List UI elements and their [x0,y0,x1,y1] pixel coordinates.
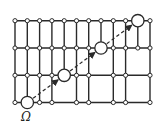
highlighted-node [21,96,33,108]
grid-node [111,46,115,50]
grid-nodes [13,19,152,105]
grid-node [87,46,91,50]
grid-lines [15,21,150,103]
grid-node [25,46,29,50]
dashed-path-arrows [33,25,132,98]
grid-node [148,73,152,77]
dashed-arrow [70,53,95,71]
grid-node [74,100,78,104]
dashed-arrow [33,80,58,98]
grid-node [38,46,42,50]
grid-node [38,19,42,23]
grid-node [62,46,66,50]
omega-label: Ω [21,110,31,124]
grid-node [13,46,17,50]
grid-node [124,19,128,23]
grid-node [13,73,17,77]
grid-node [38,73,42,77]
dashed-arrow [107,25,132,43]
grid-node [50,19,54,23]
grid-node [124,46,128,50]
grid-node [13,19,17,23]
grid-node [136,46,140,50]
grid-node [13,100,17,104]
grid-node [50,100,54,104]
grid-node [38,100,42,104]
grid-node [25,19,29,23]
grid-node [148,100,152,104]
grid-node [74,46,78,50]
grid-node [25,73,29,77]
grid-node [74,19,78,23]
highlighted-node [58,69,70,81]
grid-node [111,100,115,104]
highlighted-node [95,42,107,54]
grid-node [74,73,78,77]
grid-node [99,19,103,23]
grid-node [148,46,152,50]
grid-node [50,46,54,50]
grid-node [87,19,91,23]
highlighted-node [132,15,144,27]
grid-node [111,19,115,23]
grid-node [50,73,54,77]
grid-node [111,73,115,77]
grid-node [124,100,128,104]
grid-node [148,19,152,23]
grid-node [87,100,91,104]
grid-node [62,19,66,23]
grid-node [87,73,91,77]
grid-node [124,73,128,77]
